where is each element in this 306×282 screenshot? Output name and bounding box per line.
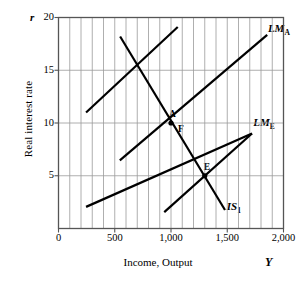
curve-LM_A_upper_segment [86, 27, 178, 112]
data-point-A [168, 120, 173, 125]
curves-group [86, 27, 267, 212]
data-point-E [202, 173, 207, 178]
chart-plot-area [0, 0, 306, 282]
isml-chart-figure: Real interest rate r Income, Output Y 51… [0, 0, 306, 282]
